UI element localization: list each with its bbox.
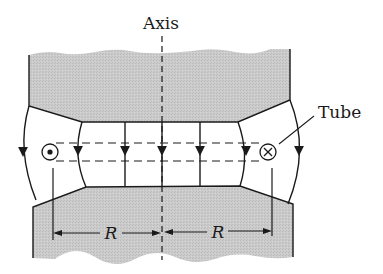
tube-label: Tube <box>318 102 361 122</box>
tube-right-cross-icon <box>260 144 276 160</box>
lower-pole-piece <box>33 186 293 264</box>
betatron-diagram: Axis Tube <box>0 0 383 274</box>
tube-left-dot-icon <box>42 144 58 160</box>
field-line-inner-right <box>238 122 245 186</box>
axis-label: Axis <box>142 13 179 33</box>
upper-pole-piece <box>29 49 290 122</box>
field-line-outer-right <box>288 100 300 204</box>
field-line-outer-left <box>24 106 36 200</box>
tube-outline <box>56 143 264 161</box>
radius-label-left: R <box>104 223 118 243</box>
radius-label-right: R <box>211 222 225 242</box>
field-line-inner-left <box>78 122 86 187</box>
